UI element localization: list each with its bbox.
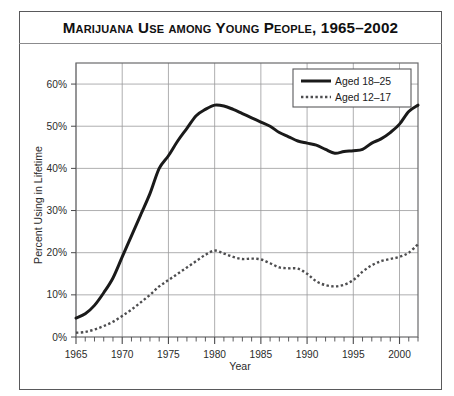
x-tick-label: 1965 <box>65 349 88 360</box>
x-axis-ticks <box>76 337 418 344</box>
chart-svg: 19651970197519801985199019952000 0%10%20… <box>0 0 454 396</box>
legend-label-1: Aged 18–25 <box>335 76 391 87</box>
x-axis-label: Year <box>229 360 251 372</box>
x-tick-label: 1990 <box>296 349 319 360</box>
x-tick-label: 1980 <box>203 349 226 360</box>
x-tick-label: 2000 <box>388 349 411 360</box>
plot-area: 19651970197519801985199019952000 0%10%20… <box>0 0 454 396</box>
x-tick-label: 1995 <box>342 349 365 360</box>
x-axis-tick-labels: 19651970197519801985199019952000 <box>65 349 412 360</box>
y-tick-label: 0% <box>52 332 67 343</box>
data-series-group <box>76 105 418 333</box>
y-axis-tick-labels: 0%10%20%30%40%50%60% <box>47 79 67 343</box>
y-tick-label: 10% <box>47 289 67 300</box>
y-tick-label: 40% <box>47 163 67 174</box>
y-axis-ticks <box>71 84 76 337</box>
x-tick-label: 1970 <box>111 349 134 360</box>
legend-label-2: Aged 12–17 <box>335 92 391 103</box>
y-axis-label: Percent Using in Lifetime <box>32 146 44 264</box>
x-tick-label: 1985 <box>250 349 273 360</box>
x-tick-label: 1975 <box>157 349 180 360</box>
chart-legend: Aged 18–25Aged 12–17 <box>293 69 411 107</box>
y-tick-label: 60% <box>47 79 67 90</box>
y-tick-label: 30% <box>47 205 67 216</box>
series-line-2 <box>76 244 418 333</box>
y-tick-label: 50% <box>47 121 67 132</box>
figure-root: Marijuana Use among Young People, 1965–2… <box>0 0 454 396</box>
y-tick-label: 20% <box>47 247 67 258</box>
series-line-1 <box>76 105 418 318</box>
